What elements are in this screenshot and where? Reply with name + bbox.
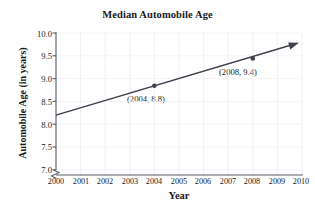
plot-area xyxy=(0,0,315,212)
data-marker-2008 xyxy=(251,56,256,61)
trend-line-arrowhead xyxy=(288,43,299,50)
axis-break-symbol xyxy=(52,170,60,179)
chart-figure: Median Automobile Age Automobile Age (in… xyxy=(0,0,315,212)
trend-line xyxy=(56,45,293,116)
data-marker-2004 xyxy=(152,84,157,89)
